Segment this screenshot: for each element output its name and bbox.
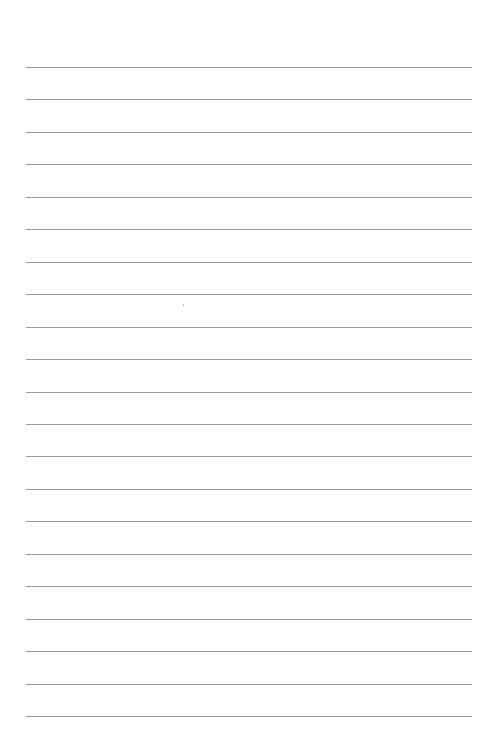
ruled-line <box>26 99 472 100</box>
ruled-line <box>26 424 472 425</box>
ruled-line <box>26 521 472 522</box>
ruled-line <box>26 164 472 165</box>
ruled-line <box>26 554 472 555</box>
ruled-line <box>26 262 472 263</box>
lined-paper-page <box>0 0 490 740</box>
ruled-line <box>26 327 472 328</box>
ruled-line <box>26 229 472 230</box>
ruled-line <box>26 586 472 587</box>
paper-speck <box>183 304 184 306</box>
ruled-line <box>26 132 472 133</box>
ruled-line <box>26 392 472 393</box>
ruled-line <box>26 489 472 490</box>
ruled-line <box>26 651 472 652</box>
ruled-line <box>26 716 472 717</box>
ruled-line <box>26 359 472 360</box>
ruled-line <box>26 619 472 620</box>
ruled-line <box>26 67 472 68</box>
ruled-line <box>26 294 472 295</box>
ruled-line <box>26 456 472 457</box>
ruled-line <box>26 684 472 685</box>
ruled-line <box>26 197 472 198</box>
